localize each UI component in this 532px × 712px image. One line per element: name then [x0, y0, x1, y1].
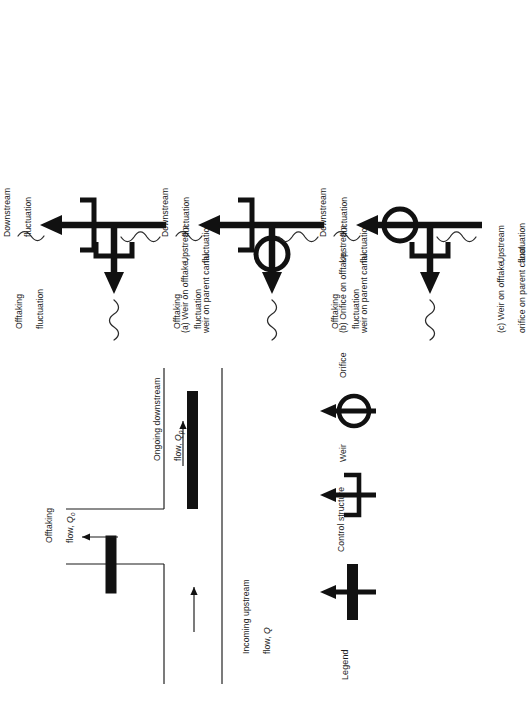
panel-c-offtaking-l2: fluctuation	[351, 289, 361, 329]
panel-c-offtaking-label: Offtaking fluctuation	[320, 289, 372, 344]
orifice-icon	[314, 386, 376, 436]
panel-b-offtake-arrowhead	[262, 272, 282, 294]
panel-a-downstream-label: Downstream fluctuation	[0, 188, 44, 252]
incoming-flow-label: Incoming upstream flow, Q	[231, 579, 283, 669]
panel-c-downstream-l1: Downstream	[318, 188, 328, 237]
panel-a-downstream-l2: fluctuation	[23, 197, 33, 237]
panel-b-offtaking-l1: Offtaking	[172, 294, 182, 329]
panel-c-offtaking-l1: Offtaking	[330, 294, 340, 329]
panel-a-offtake-arrowhead	[104, 272, 124, 294]
offtaking-flow-symbol: Q	[65, 516, 75, 523]
panel-a-offtaking-label: Offtaking fluctuation	[4, 289, 56, 344]
panel-a: Offtaking fluctuation Downstream fluctua…	[18, 110, 166, 340]
panel-c-caption-l2: orifice on parent canal	[517, 246, 527, 333]
control-structure-icon	[314, 560, 376, 624]
panel-c: Offtaking fluctuation Downstream fluctua…	[334, 110, 482, 340]
incoming-flow-symbol: Q	[262, 627, 272, 634]
panel-c-downstream-l2: fluctuation	[339, 197, 349, 237]
legend-item-orifice: Orifice	[314, 386, 376, 436]
panel-b-offtaking-label: Offtaking fluctuation	[162, 289, 214, 344]
offtaking-flow-subscript: o	[69, 512, 76, 516]
panel-b-offtake-wave	[268, 300, 277, 340]
incoming-flow-label-line2: flow,	[262, 634, 272, 654]
offtaking-flow-label: Offtaking flow, Qo	[34, 508, 89, 558]
panel-c-upstream-wave	[437, 232, 476, 242]
panel-a-offtaking-l1: Offtaking	[14, 294, 24, 329]
ongoing-flow-label-line2: flow,	[173, 441, 183, 461]
panel-b-downstream-label: Downstream fluctuation	[150, 188, 202, 252]
panel-c-downstream-label: Downstream fluctuation	[308, 188, 360, 252]
legend-label-weir: Weir	[338, 444, 348, 462]
weir-icon	[314, 470, 376, 520]
panel-b-downstream-l1: Downstream	[160, 188, 170, 237]
ongoing-flow-subscript: p	[177, 430, 184, 434]
panel-a-downstream-l1: Downstream	[2, 188, 12, 237]
incoming-flow-label-line1: Incoming upstream	[241, 579, 251, 654]
panel-a-offtake-wave	[110, 300, 119, 340]
ongoing-flow-symbol: Q	[173, 434, 183, 441]
incoming-flow-arrow	[190, 587, 197, 632]
offtake-control-gate	[106, 536, 117, 594]
legend: Legend Control structure Weir	[300, 380, 420, 680]
main-canal-offtake-diagram: Incoming upstream flow, Q Offtaking flow…	[26, 368, 256, 684]
ongoing-flow-label: Ongoing downstream flow, Qp	[142, 378, 197, 476]
legend-title: Legend	[340, 649, 350, 680]
panel-c-offtake-arrowhead	[420, 272, 440, 294]
panel-b-downstream-l2: fluctuation	[181, 197, 191, 237]
legend-label-orifice: Orifice	[338, 352, 348, 378]
panel-a-offtaking-l2: fluctuation	[35, 289, 45, 329]
legend-item-weir: Weir	[314, 470, 376, 520]
ongoing-flow-label-line1: Ongoing downstream	[152, 378, 162, 462]
legend-item-control-structure: Control structure	[314, 560, 376, 624]
panel-c-offtake-wave	[426, 300, 435, 340]
panel-c-caption: (c) Weir on offtake, orifice on parent c…	[486, 246, 532, 348]
offtaking-flow-label-line2: flow,	[65, 523, 75, 543]
offtaking-flow-label-line1: Offtaking	[44, 508, 54, 543]
panel-b-offtaking-l2: fluctuation	[193, 289, 203, 329]
panel-b: Offtaking fluctuation Downstream fluctua…	[176, 110, 324, 340]
panel-c-caption-l1: (c) Weir on offtake,	[496, 259, 506, 333]
